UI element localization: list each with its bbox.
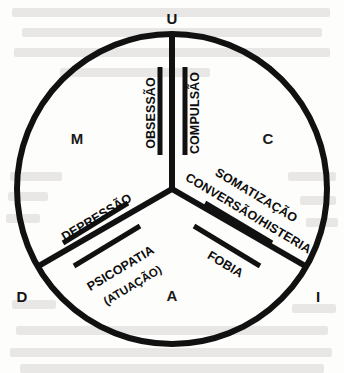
sector-letter-a: A bbox=[167, 287, 178, 304]
axis-letter-i: I bbox=[316, 288, 320, 305]
spoke-label-compulsao: COMPULSÃO bbox=[187, 72, 202, 154]
figure-canvas: UDIMCAOBSESSÃOCOMPULSÃODEPRESSÃOPSICOPAT… bbox=[0, 0, 344, 373]
triadic-circle-diagram: UDIMCAOBSESSÃOCOMPULSÃODEPRESSÃOPSICOPAT… bbox=[0, 0, 344, 373]
axis-letter-u: U bbox=[167, 10, 178, 27]
sector-letter-m: M bbox=[71, 130, 84, 147]
axis-letter-d: D bbox=[17, 288, 28, 305]
sector-letter-c: C bbox=[263, 130, 274, 147]
spoke-label-obsessao: OBSESSÃO bbox=[143, 77, 158, 149]
